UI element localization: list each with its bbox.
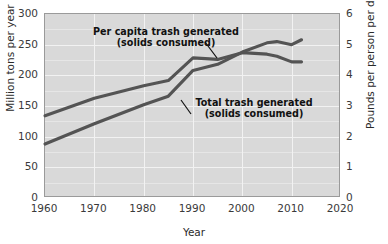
x-axis-title: Year <box>0 226 388 238</box>
x-axis-tick-2020: 2020 <box>320 203 360 214</box>
y-axis-right-tick-4: 4 <box>346 69 353 80</box>
x-axis-tick-2010: 2010 <box>271 203 311 214</box>
x-axis-tick-1980: 1980 <box>123 203 163 214</box>
chart-figure: 300 250 200 150 100 50 0 6 5 4 3 2 1 0 1… <box>0 0 388 244</box>
y-axis-left-tick-100: 100 <box>0 131 38 142</box>
y-axis-right-tick-5: 5 <box>346 39 353 50</box>
annotation-per-capita: Per capita trash generated (solids consu… <box>82 26 250 49</box>
x-axis-tick-1960: 1960 <box>24 203 64 214</box>
y-axis-right-tick-2: 2 <box>346 131 353 142</box>
y-axis-right-tick-3: 3 <box>346 100 353 111</box>
x-axis-tick-2000: 2000 <box>221 203 261 214</box>
y-axis-right-title: Pounds per person per day <box>364 0 376 129</box>
y-axis-left-tick-0: 0 <box>0 192 38 203</box>
y-axis-right-tick-6: 6 <box>346 8 353 19</box>
annotation-total: Total trash generated (solids consumed) <box>178 97 330 120</box>
y-axis-right-tick-1: 1 <box>346 161 353 172</box>
y-axis-left-tick-50: 50 <box>0 161 38 172</box>
x-axis-tick-1970: 1970 <box>73 203 113 214</box>
y-axis-right-tick-0: 0 <box>346 192 353 203</box>
y-axis-left-title: Million tons per year <box>4 3 16 113</box>
x-axis-tick-1990: 1990 <box>172 203 212 214</box>
